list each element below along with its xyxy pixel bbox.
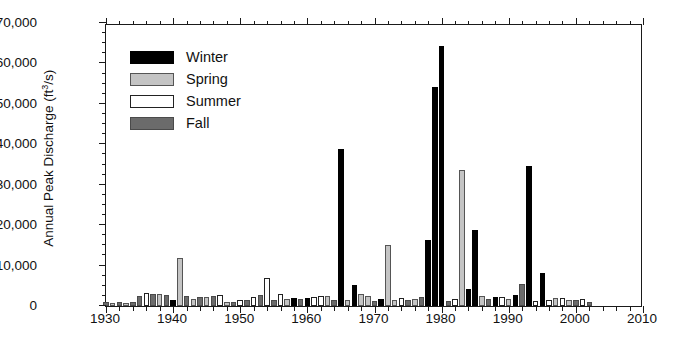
x-tick-minor (361, 21, 362, 26)
y-axis-title-exponent: 3 (40, 85, 50, 90)
bar (553, 298, 559, 306)
x-tick-major (307, 18, 308, 25)
x-tick-minor (468, 21, 469, 26)
bar (318, 296, 324, 306)
y-tick-label: 40,000 (0, 136, 37, 151)
x-tick-minor (401, 306, 402, 311)
x-tick-minor (267, 306, 268, 311)
bar (466, 289, 472, 306)
bar (284, 299, 290, 306)
y-tick-minor (102, 194, 107, 195)
x-tick-minor (227, 21, 228, 26)
y-tick-major (99, 143, 106, 144)
bar (325, 296, 331, 306)
bar (352, 285, 358, 306)
x-tick-minor (227, 306, 228, 311)
y-tick-minor (102, 234, 107, 235)
y-tick-major (99, 22, 106, 23)
bar (540, 273, 546, 306)
x-tick-minor (160, 21, 161, 26)
legend-item-winter: Winter (130, 47, 241, 67)
x-tick-minor (495, 306, 496, 311)
x-tick-label: 1970 (339, 311, 409, 326)
bar (432, 87, 438, 306)
bar (164, 295, 170, 306)
y-tick-major (99, 305, 106, 306)
legend-label: Fall (186, 116, 209, 130)
x-tick-label: 1980 (406, 311, 476, 326)
x-tick-minor (213, 306, 214, 311)
y-tick-minor (102, 73, 107, 74)
x-tick-major (442, 18, 443, 25)
y-tick-minor (102, 214, 107, 215)
y-tick-label: 50,000 (0, 96, 37, 111)
bar (271, 300, 277, 306)
x-tick-minor (562, 306, 563, 311)
x-tick-minor (630, 306, 631, 311)
bar (258, 295, 264, 306)
bar (278, 294, 284, 306)
y-tick-minor (102, 295, 107, 296)
legend-swatch (130, 117, 174, 130)
x-tick-minor (482, 306, 483, 311)
x-tick-minor (146, 21, 147, 26)
bar (191, 299, 197, 306)
y-tick-minor (102, 153, 107, 154)
x-tick-minor (468, 306, 469, 311)
x-tick-minor (348, 21, 349, 26)
x-tick-minor (187, 306, 188, 311)
y-tick-minor (102, 83, 107, 84)
y-tick-minor (102, 285, 107, 286)
x-tick-label: 2000 (540, 311, 610, 326)
y-tick-minor (102, 93, 107, 94)
x-tick-minor (388, 21, 389, 26)
x-tick-minor (401, 21, 402, 26)
x-tick-minor (536, 21, 537, 26)
bar (365, 296, 371, 306)
y-tick-minor (102, 204, 107, 205)
bar (177, 258, 183, 306)
x-tick-minor (361, 306, 362, 311)
x-tick-minor (133, 306, 134, 311)
bar (211, 296, 217, 307)
x-tick-minor (133, 21, 134, 26)
x-tick-minor (119, 306, 120, 311)
x-tick-minor (348, 306, 349, 311)
legend-label: Winter (186, 50, 228, 64)
y-tick-minor (102, 133, 107, 134)
x-tick-minor (536, 306, 537, 311)
x-tick-minor (522, 306, 523, 311)
bar (499, 297, 505, 306)
x-tick-minor (616, 21, 617, 26)
bar (412, 299, 418, 306)
bar (439, 46, 445, 306)
x-tick-minor (213, 21, 214, 26)
bar (217, 295, 223, 306)
x-tick-minor (603, 306, 604, 311)
x-tick-major (643, 18, 644, 25)
x-tick-minor (267, 21, 268, 26)
y-tick-minor (102, 32, 107, 33)
x-tick-label: 1990 (473, 311, 543, 326)
y-tick-major (99, 184, 106, 185)
bar (472, 230, 478, 306)
x-tick-minor (415, 21, 416, 26)
bar (479, 296, 485, 306)
y-tick-minor (102, 52, 107, 53)
x-tick-minor (254, 21, 255, 26)
bar (291, 298, 297, 306)
x-tick-minor (281, 306, 282, 311)
bar (560, 298, 566, 306)
x-tick-minor (589, 21, 590, 26)
bar (405, 300, 411, 306)
y-tick-major (99, 62, 106, 63)
x-tick-label: 1930 (70, 311, 140, 326)
bar (486, 299, 492, 306)
bar (137, 296, 143, 307)
bar (204, 297, 210, 306)
x-tick-major (106, 18, 107, 25)
bar (231, 302, 237, 306)
x-tick-minor (254, 306, 255, 311)
x-tick-minor (119, 21, 120, 26)
x-tick-minor (522, 21, 523, 26)
